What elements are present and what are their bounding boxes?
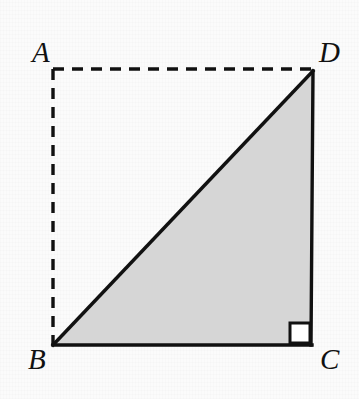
solid-segment-CD — [311, 71, 313, 345]
vertex-label-D: D — [319, 38, 340, 67]
geometry-figure-canvas: A D B C — [0, 0, 359, 399]
vertex-label-A: A — [32, 38, 50, 67]
vertex-label-B: B — [28, 345, 46, 374]
right-angle-marker-at-C — [290, 323, 310, 343]
vertex-label-C: C — [320, 345, 339, 374]
geometry-diagram-svg — [0, 0, 359, 399]
